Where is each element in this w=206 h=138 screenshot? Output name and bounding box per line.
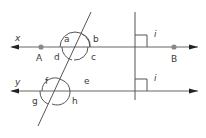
angle-g-label: g bbox=[32, 96, 38, 106]
transversal-line bbox=[38, 12, 91, 126]
angle-a-label: a bbox=[64, 34, 70, 44]
right-angle-upper-label: i bbox=[154, 29, 157, 39]
line-y-label: y bbox=[14, 77, 21, 87]
point-a-dot bbox=[38, 44, 43, 49]
right-angle-lower-icon bbox=[135, 79, 147, 91]
angle-c-label: c bbox=[91, 52, 96, 62]
point-b-dot bbox=[171, 44, 176, 49]
diagram-canvas: x y A B a b c d e f g h i i bbox=[0, 0, 206, 138]
angle-b-label: b bbox=[93, 34, 99, 44]
line-x-label: x bbox=[14, 33, 21, 43]
point-b-label: B bbox=[171, 54, 177, 64]
line-x bbox=[10, 45, 198, 50]
line-y bbox=[10, 89, 198, 94]
angle-h-label: h bbox=[72, 96, 78, 106]
arrow-right-icon bbox=[189, 89, 198, 94]
right-angle-upper-icon bbox=[135, 35, 147, 47]
angle-e-label: e bbox=[84, 76, 90, 86]
angle-d-label: d bbox=[54, 52, 60, 62]
arrow-left-icon bbox=[10, 89, 19, 94]
right-angle-lower-label: i bbox=[154, 73, 157, 83]
arrow-left-icon bbox=[10, 45, 19, 50]
arrow-right-icon bbox=[189, 45, 198, 50]
angle-f-label: f bbox=[45, 76, 49, 86]
point-a-label: A bbox=[36, 53, 43, 63]
angle-b-arc bbox=[82, 34, 90, 47]
